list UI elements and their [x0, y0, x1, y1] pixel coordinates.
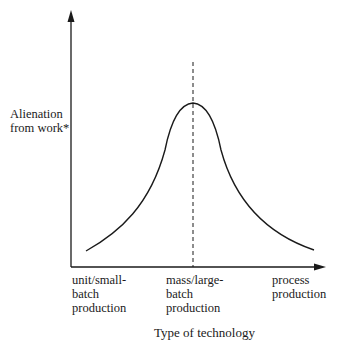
x-category-process: process production: [272, 273, 326, 301]
y-axis-arrow-icon: [68, 10, 75, 22]
category-line: mass/large-: [166, 273, 223, 287]
y-axis-label: Alienation from work*: [10, 107, 69, 135]
category-line: production: [72, 301, 126, 315]
category-line: process: [272, 273, 326, 287]
x-axis-label: Type of technology: [154, 326, 255, 340]
category-line: production: [272, 287, 326, 301]
category-line: unit/small-: [72, 273, 126, 287]
category-line: batch: [166, 287, 223, 301]
y-axis-label-line: from work*: [10, 121, 69, 135]
x-category-mass-large-batch: mass/large- batch production: [166, 273, 223, 315]
x-axis-arrow-icon: [314, 264, 326, 271]
y-axis-label-line: Alienation: [10, 107, 69, 121]
category-line: production: [166, 301, 223, 315]
x-category-unit-small-batch: unit/small- batch production: [72, 273, 126, 315]
alienation-curve: [86, 103, 314, 251]
category-line: batch: [72, 287, 126, 301]
